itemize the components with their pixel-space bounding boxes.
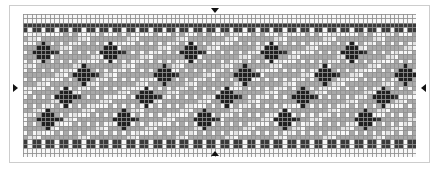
pattern-chart-root [0, 0, 439, 169]
center-marker-bottom-icon [211, 151, 219, 156]
stitch-grid-canvas[interactable] [23, 14, 416, 157]
center-marker-right-icon [421, 84, 426, 92]
center-marker-left-icon [13, 84, 18, 92]
center-marker-top-icon [211, 8, 219, 13]
